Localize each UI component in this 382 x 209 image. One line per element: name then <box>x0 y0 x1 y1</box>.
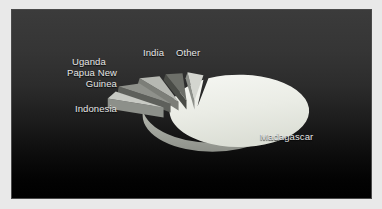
chart-plot-area: Uganda Papua New Guinea Indonesia India … <box>11 9 372 199</box>
pie-label-papua-new-guinea-line2: Guinea <box>34 79 117 90</box>
pie-label-papua-new-guinea: Papua New Guinea <box>34 68 117 89</box>
pie-label-other: Other <box>176 48 200 59</box>
pie-label-india: India <box>143 48 164 59</box>
pie-label-madagascar: Madagascar <box>260 132 313 143</box>
pie-label-uganda: Uganda <box>72 57 106 68</box>
chart-frame: Uganda Papua New Guinea Indonesia India … <box>0 0 382 209</box>
pie-label-indonesia: Indonesia <box>34 104 117 115</box>
pie-label-papua-new-guinea-line1: Papua New <box>34 68 117 79</box>
